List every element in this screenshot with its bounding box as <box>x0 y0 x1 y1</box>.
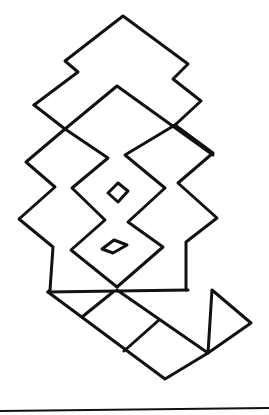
right-inner-zigzag <box>117 125 175 287</box>
right-outer-zigzag <box>175 125 217 290</box>
left-inner-zigzag <box>65 129 117 287</box>
horizontal-rule <box>0 408 269 411</box>
band-cross-1 <box>82 292 113 317</box>
drawing-canvas <box>0 0 269 415</box>
top-diamond-left-lower <box>34 105 65 129</box>
top-notched-diamond <box>34 16 201 125</box>
line-drawing <box>0 0 269 415</box>
small-diamond-lower <box>102 240 127 253</box>
small-diamond-upper <box>108 183 128 202</box>
triangle <box>208 290 251 353</box>
left-outer-zigzag <box>19 129 65 290</box>
band-cross-2 <box>124 320 159 351</box>
